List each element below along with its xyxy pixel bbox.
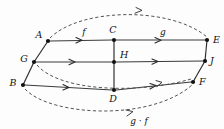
node-label-f: F (198, 76, 206, 87)
edge-label-g-compose-f: g · f (130, 116, 149, 126)
vertex-a (46, 39, 50, 43)
vertex-c (112, 38, 116, 42)
node-label-c: C (109, 24, 117, 35)
frame-edge-e-j (205, 40, 207, 61)
vertex-g (32, 60, 36, 64)
vertex-b (21, 83, 25, 87)
node-label-d: D (108, 93, 117, 104)
edge-d-to-f (116, 82, 191, 90)
diagram-canvas: A G B C H D E J F f g g · f (0, 0, 224, 129)
node-label-a: A (35, 29, 43, 40)
frame-edge-g-b (23, 62, 34, 85)
arrowhead-dashed-top (135, 8, 142, 14)
vertex-group (21, 38, 209, 92)
edge-h-to-j (116, 61, 203, 62)
vertex-j (203, 59, 207, 63)
vertex-f (191, 80, 195, 84)
vertex-h (112, 60, 116, 64)
node-label-j: J (208, 55, 215, 66)
frame-edge-a-g (34, 41, 48, 62)
node-label-b: B (9, 77, 17, 88)
frame-edge-group (23, 40, 207, 90)
node-label-h: H (119, 49, 129, 60)
node-label-e: E (212, 34, 220, 45)
node-label-g: G (20, 53, 28, 64)
vertex-d (112, 88, 116, 92)
vertex-e (205, 38, 209, 42)
edge-label-f: f (81, 27, 87, 37)
edge-label-g: g (160, 27, 166, 37)
commutative-diagram: A G B C H D E J F f g g · f (0, 0, 224, 129)
dashed-arc-top (50, 15, 207, 38)
